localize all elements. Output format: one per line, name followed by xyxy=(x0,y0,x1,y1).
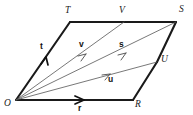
point-labels: O T V S U R xyxy=(4,4,184,109)
vector-diagram: O T V S U R t v s u r xyxy=(0,0,193,115)
arrowhead-v xyxy=(78,54,86,61)
point-label-T: T xyxy=(65,5,71,15)
point-label-V: V xyxy=(119,5,126,15)
ray-O-V xyxy=(16,22,124,100)
vector-labels: t v s u r xyxy=(40,39,124,113)
ray-O-S xyxy=(16,22,176,100)
vector-label-r: r xyxy=(78,103,82,113)
vector-label-u: u xyxy=(108,74,113,84)
vector-figure-svg: O T V S U R t v s u r xyxy=(0,0,193,115)
arrowheads xyxy=(41,53,126,104)
point-label-R: R xyxy=(134,99,141,109)
point-label-O: O xyxy=(4,98,11,108)
arrowhead-s xyxy=(118,53,126,60)
vector-rays xyxy=(16,22,176,100)
vector-label-v: v xyxy=(79,39,84,49)
point-label-S: S xyxy=(179,4,184,14)
point-label-U: U xyxy=(161,54,169,64)
vector-label-t: t xyxy=(40,41,43,51)
vector-label-s: s xyxy=(119,39,124,49)
